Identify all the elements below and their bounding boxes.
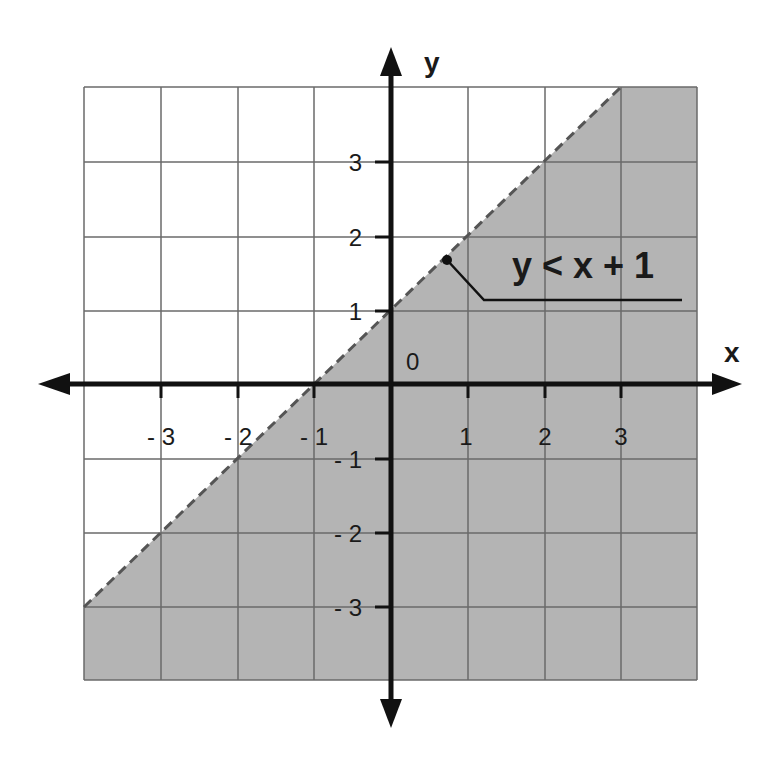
y-tick-label: 1 (349, 298, 362, 325)
x-tick-label: 2 (538, 423, 551, 450)
x-axis-left-arrow-icon (38, 373, 70, 395)
x-tick-label: - 1 (300, 423, 328, 450)
x-tick-label: 3 (614, 423, 627, 450)
y-tick-label: - 3 (334, 594, 362, 621)
y-axis-label: y (424, 47, 440, 78)
y-tick-label: - 2 (334, 520, 362, 547)
x-axis-label: x (724, 337, 740, 368)
origin-label: 0 (406, 348, 419, 375)
x-tick-label: - 3 (147, 423, 175, 450)
x-axis-right-arrow-icon (712, 373, 742, 395)
x-tick-label: 1 (459, 423, 472, 450)
y-tick-label: - 1 (334, 446, 362, 473)
y-tick-label: 3 (349, 149, 362, 176)
x-tick-label: - 2 (224, 423, 252, 450)
inequality-graph: - 3 - 2 - 1 1 2 3 3 2 1 - 1 - 2 - 3 0 y … (0, 0, 784, 764)
y-tick-label: 2 (349, 224, 362, 251)
y-axis-up-arrow-icon (380, 47, 402, 76)
y-axis-down-arrow-icon (380, 699, 402, 728)
inequality-label: y < x + 1 (512, 245, 654, 286)
